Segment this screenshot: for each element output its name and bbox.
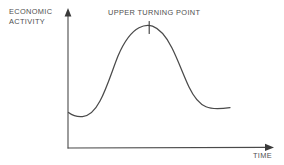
x-axis-arrow-icon <box>265 144 274 151</box>
x-axis-label: TIME <box>253 151 272 161</box>
y-axis-label-line-2: ACTIVITY <box>9 17 52 27</box>
business-cycle-figure: ECONOMIC ACTIVITY UPPER TURNING POINT TI… <box>0 0 284 165</box>
y-axis-arrow-icon <box>65 8 72 17</box>
y-axis-label-line-1: ECONOMIC <box>9 7 52 16</box>
y-axis <box>65 8 72 148</box>
x-axis-line <box>68 147 266 148</box>
economic-activity-curve <box>69 25 231 116</box>
x-axis <box>68 144 274 151</box>
upper-turning-point-label: UPPER TURNING POINT <box>108 8 200 18</box>
y-axis-label: ECONOMIC ACTIVITY <box>9 7 52 26</box>
